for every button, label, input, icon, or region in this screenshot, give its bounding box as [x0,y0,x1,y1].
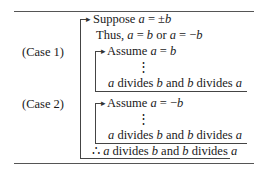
outer-bracket-bottom [80,158,230,159]
case1-bracket-vertical [95,51,96,91]
case1-bracket-bottom [95,91,247,92]
case2-dots: ⋮ [137,112,150,126]
outer-bracket-vertical [80,19,81,159]
outer-arrow-icon: ▸ [86,14,91,24]
case2-arrow-icon: ▸ [101,98,106,108]
bottom-rule [14,163,254,164]
case2-label: (Case 2) [22,97,64,111]
case1-conclusion: a divides b and b divides a [108,76,242,90]
therefore-line: ∴ a divides b and b divides a [92,144,237,158]
thus-line: Thus, a = b or a = −b [96,28,203,42]
case2-conclusion: a divides b and b divides a [108,128,242,142]
case1-dots: ⋮ [137,60,150,74]
case2-bracket-vertical [95,103,96,143]
case2-assume: Assume a = −b [107,96,183,110]
case1-label: (Case 1) [22,45,64,59]
case1-arrow-icon: ▸ [101,46,106,56]
case1-assume: Assume a = b [107,44,176,58]
suppose-line: Suppose a = ±b [93,12,171,26]
